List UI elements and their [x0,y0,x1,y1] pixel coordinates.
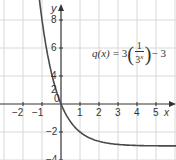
function-constant: − 3 [152,47,166,59]
y-tick-label: 8 [51,15,57,25]
origin-label: 0 [54,94,60,104]
x-tick-label: 3 [115,108,121,118]
x-tick-label: 1 [77,108,83,118]
function-name: q(x) [92,47,110,59]
left-paren: ( [127,42,134,64]
y-tick-label: 4 [51,71,57,81]
y-axis-arrow-icon [58,4,64,11]
x-tick-label: −2 [12,108,23,118]
x-tick-label: 2 [96,108,102,118]
axes [0,8,172,160]
y-tick-label: 2 [51,85,57,95]
fraction-numerator: 1 [135,40,144,52]
graph-canvas [0,0,176,160]
fraction-denominator: 3x [135,52,143,65]
x-tick-label: −1 [32,108,43,118]
fraction: 1 3x [135,40,144,65]
y-tick-label: 6 [51,43,57,53]
right-paren: ) [145,42,152,64]
y-axis-label: y [51,3,57,14]
y-tick-label: −4 [46,155,57,160]
exponent: x [140,53,143,61]
y-tick-label: −2 [46,127,57,137]
x-axis-label: x [164,108,169,118]
function-curve [39,0,176,146]
x-tick-label: 4 [134,108,140,118]
function-label: q(x) = 3 ( 1 3x ) − 3 [92,40,166,65]
x-tick-label: 5 [153,108,159,118]
function-coef: = 3 [113,47,127,59]
grid [0,0,176,160]
